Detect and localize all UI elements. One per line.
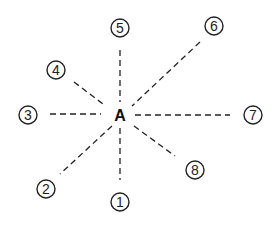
node-2: 2 <box>37 180 55 198</box>
node-1: 1 <box>111 193 129 211</box>
svg-text:7: 7 <box>249 107 257 123</box>
svg-text:2: 2 <box>42 181 50 197</box>
svg-text:8: 8 <box>191 162 199 178</box>
node-3: 3 <box>19 106 37 124</box>
svg-text:5: 5 <box>116 20 124 36</box>
ray-6 <box>132 42 200 106</box>
node-8: 8 <box>186 161 204 179</box>
node-7: 7 <box>244 106 262 124</box>
svg-text:4: 4 <box>52 62 60 78</box>
svg-text:1: 1 <box>116 194 124 210</box>
ray-4 <box>74 82 103 104</box>
center-label: A <box>114 107 126 124</box>
svg-text:6: 6 <box>210 18 218 34</box>
radial-diagram: A 1 2 3 4 5 6 7 8 <box>0 0 278 226</box>
ray-8 <box>134 126 175 156</box>
node-6: 6 <box>205 17 223 35</box>
ray-2 <box>60 126 112 174</box>
node-4: 4 <box>47 61 65 79</box>
node-5: 5 <box>111 19 129 37</box>
svg-text:3: 3 <box>24 107 32 123</box>
